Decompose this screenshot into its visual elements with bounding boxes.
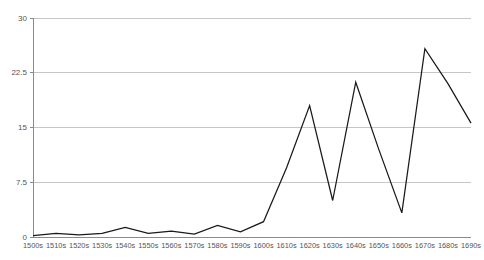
x-tick-label: 1630s: [323, 241, 343, 250]
x-tick-label: 1670s: [415, 241, 435, 250]
x-tick-label: 1520s: [69, 241, 89, 250]
y-tick-label: 30: [18, 14, 27, 23]
y-tick-label: 7.5: [16, 178, 28, 187]
x-tick-label: 1550s: [138, 241, 158, 250]
line-chart: 07.51522.530 1500s1510s1520s1530s1540s15…: [0, 0, 484, 260]
x-tick-label: 1590s: [230, 241, 250, 250]
x-tick-label: 1690s: [461, 241, 481, 250]
x-tick-label: 1560s: [161, 241, 181, 250]
x-tick-label: 1500s: [23, 241, 43, 250]
y-tick-label: 22.5: [11, 68, 27, 77]
x-tick-label: 1640s: [346, 241, 366, 250]
x-tick-label: 1680s: [438, 241, 458, 250]
x-tick-label: 1610s: [277, 241, 297, 250]
x-tick-label: 1530s: [92, 241, 112, 250]
x-tick-label: 1600s: [253, 241, 273, 250]
chart-background: [0, 0, 484, 260]
x-tick-label: 1540s: [115, 241, 135, 250]
x-tick-label: 1660s: [392, 241, 412, 250]
x-tick-label: 1650s: [369, 241, 389, 250]
y-tick-label: 15: [18, 123, 27, 132]
x-tick-label: 1620s: [300, 241, 320, 250]
x-tick-label: 1510s: [46, 241, 66, 250]
x-tick-label: 1570s: [184, 241, 204, 250]
x-tick-label: 1580s: [207, 241, 227, 250]
chart-canvas: 07.51522.530 1500s1510s1520s1530s1540s15…: [0, 0, 484, 260]
